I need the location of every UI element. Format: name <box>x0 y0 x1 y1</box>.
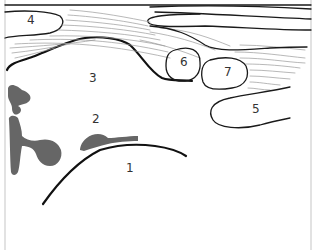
label-3: 3 <box>89 71 97 85</box>
label-4: 4 <box>27 13 35 27</box>
structure-3-upper-border <box>7 37 192 81</box>
small-upper-mass <box>8 85 31 115</box>
structure-1-curve <box>43 145 186 204</box>
label-7: 7 <box>224 65 232 79</box>
structure-5-outline <box>211 87 290 128</box>
vertical-grey-structure <box>9 116 62 175</box>
label-6: 6 <box>180 55 188 69</box>
label-5: 5 <box>252 102 260 116</box>
label-2: 2 <box>92 112 100 126</box>
upper-right-oval-outline <box>148 14 311 30</box>
upper-layer-line <box>150 6 311 9</box>
upper-layer-lower-line <box>155 12 311 19</box>
label-1: 1 <box>126 161 134 175</box>
fibre-bundle <box>10 10 305 90</box>
anatomical-diagram: 1 2 3 4 5 6 7 <box>0 0 315 250</box>
